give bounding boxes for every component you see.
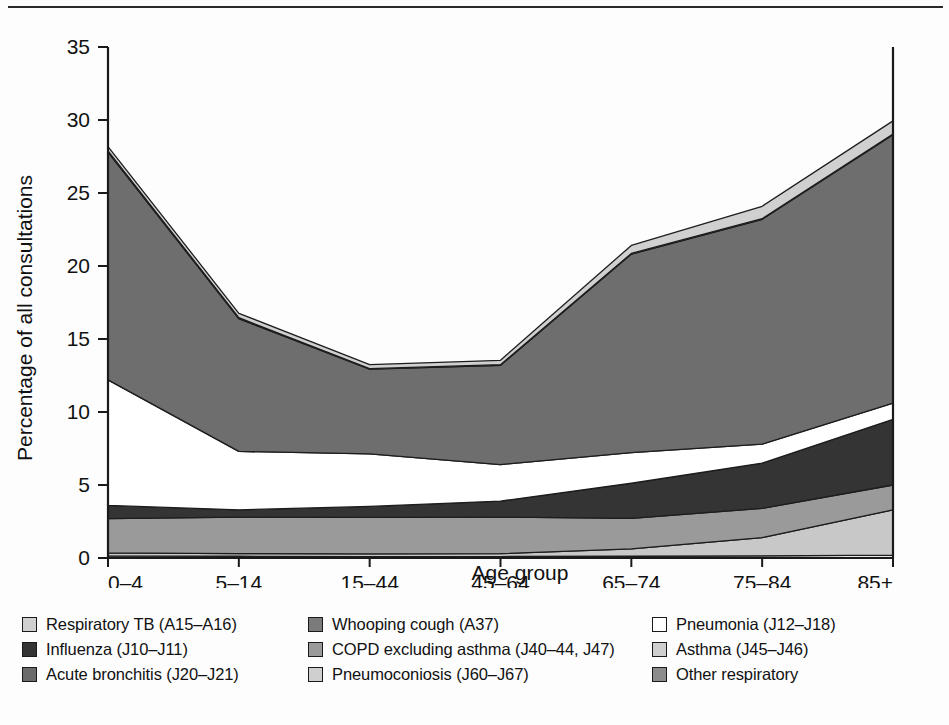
- x-tick-label: 15–44: [340, 571, 399, 588]
- legend-swatch-acute-bronchitis: [22, 667, 37, 682]
- x-tick-label: 65–74: [602, 571, 661, 588]
- y-tick-label: 35: [67, 35, 90, 58]
- top-divider-rule: [8, 6, 943, 8]
- legend-label-acute-bronchitis: Acute bronchitis (J20–J21): [46, 665, 239, 684]
- legend-label-respiratory-tb: Respiratory TB (A15–A16): [46, 615, 237, 634]
- y-tick-label: 25: [67, 181, 90, 204]
- x-axis-title: Age group: [472, 561, 569, 584]
- y-tick-label: 10: [67, 400, 90, 423]
- legend-label-other-respiratory: Other respiratory: [676, 665, 798, 684]
- legend-swatch-asthma: [652, 642, 667, 657]
- legend-swatch-influenza: [22, 642, 37, 657]
- legend-label-copd: COPD excluding asthma (J40–44, J47): [332, 640, 615, 659]
- legend-item-acute-bronchitis[interactable]: Acute bronchitis (J20–J21): [22, 662, 308, 687]
- x-tick-label: 0–4: [108, 571, 143, 588]
- legend-label-pneumoconiosis: Pneumoconiosis (J60–J67): [332, 665, 529, 684]
- legend-item-whooping-cough[interactable]: Whooping cough (A37): [308, 612, 652, 637]
- legend-item-influenza[interactable]: Influenza (J10–J11): [22, 637, 308, 662]
- legend-swatch-pneumoconiosis: [308, 667, 323, 682]
- y-tick-label: 5: [78, 473, 90, 496]
- y-tick-label: 0: [78, 546, 90, 569]
- legend-swatch-whooping-cough: [308, 617, 323, 632]
- chart-plot-area: 05101520253035 0–45–1415–4445–6465–7475–…: [0, 18, 949, 588]
- y-tick-label: 20: [67, 254, 90, 277]
- figure-container: 05101520253035 0–45–1415–4445–6465–7475–…: [0, 0, 949, 725]
- chart-legend: Respiratory TB (A15–A16) Influenza (J10–…: [22, 612, 932, 698]
- y-axis-title: Percentage of all consultations: [13, 175, 36, 461]
- legend-label-pneumonia: Pneumonia (J12–J18): [676, 615, 836, 634]
- stacked-area-chart: 05101520253035 0–45–1415–4445–6465–7475–…: [0, 18, 949, 588]
- legend-swatch-respiratory-tb: [22, 617, 37, 632]
- legend-item-other-respiratory[interactable]: Other respiratory: [652, 662, 932, 687]
- legend-label-whooping-cough: Whooping cough (A37): [332, 615, 499, 634]
- legend-item-respiratory-tb[interactable]: Respiratory TB (A15–A16): [22, 612, 308, 637]
- legend-item-pneumonia[interactable]: Pneumonia (J12–J18): [652, 612, 932, 637]
- legend-swatch-copd: [308, 642, 323, 657]
- y-tick-labels-group: 05101520253035: [67, 35, 90, 569]
- legend-label-influenza: Influenza (J10–J11): [46, 640, 188, 659]
- x-tick-label: 85+: [857, 571, 893, 588]
- area-series-group: [108, 121, 893, 558]
- y-tick-label: 30: [67, 108, 90, 131]
- x-tick-label: 75–84: [733, 571, 792, 588]
- legend-label-asthma: Asthma (J45–J46): [676, 640, 808, 659]
- legend-swatch-other-respiratory: [652, 667, 667, 682]
- legend-item-asthma[interactable]: Asthma (J45–J46): [652, 637, 932, 662]
- legend-item-copd[interactable]: COPD excluding asthma (J40–44, J47): [308, 637, 652, 662]
- y-tick-label: 15: [67, 327, 90, 350]
- x-tick-label: 5–14: [215, 571, 262, 588]
- legend-swatch-pneumonia: [652, 617, 667, 632]
- legend-item-pneumoconiosis[interactable]: Pneumoconiosis (J60–J67): [308, 662, 652, 687]
